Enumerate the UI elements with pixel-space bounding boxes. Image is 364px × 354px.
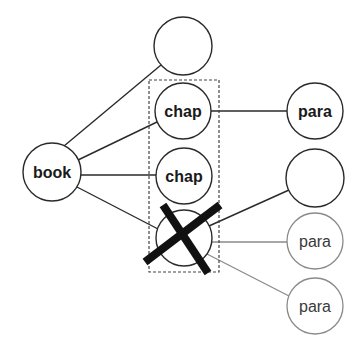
node-label: para [298,103,332,120]
edge-book-to-chap-1 [78,122,157,160]
node-empty-chap-top[interactable] [154,17,212,75]
node-book[interactable]: book [23,143,81,201]
node-label: chap [164,103,202,120]
node-para-3[interactable]: para [287,278,343,334]
node-chap-2[interactable]: chap [156,148,212,204]
tree-diagram: book chap chap para para para [0,0,364,354]
node-label: para [299,298,331,315]
edge-book-to-empty-chap [64,65,161,146]
node-label: para [299,233,331,250]
node-empty-para[interactable] [286,149,344,207]
node-label: book [33,164,71,181]
node-para-1[interactable]: para [287,83,343,139]
node-para-2[interactable]: para [287,213,343,269]
node-chap-1[interactable]: chap [155,83,211,139]
node-label: chap [165,168,203,185]
node-circle [286,149,344,207]
edge-book-to-deleted-chap [77,187,158,229]
node-circle [154,17,212,75]
